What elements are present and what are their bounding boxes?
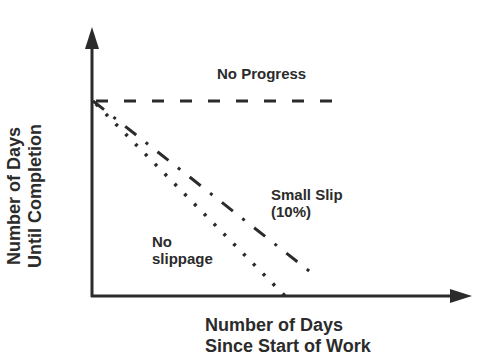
no-slippage-label-line2: slippage: [152, 250, 213, 267]
y-axis-label-line1: Number of Days: [4, 96, 25, 296]
no-progress-label: No Progress: [217, 65, 306, 82]
chart-canvas: [0, 0, 495, 360]
small-slip-label: Small Slip (10%): [271, 186, 343, 221]
x-axis-arrowhead-icon: [450, 289, 472, 303]
x-axis-label-line2: Since Start of Work: [205, 336, 371, 357]
y-axis-arrowhead-icon: [85, 27, 99, 49]
no-slippage-label: No slippage: [152, 233, 213, 268]
y-axis-label-line2: Until Completion: [25, 96, 46, 296]
small-slip-label-line2: (10%): [271, 203, 343, 220]
no-slippage-label-line1: No: [152, 233, 213, 250]
small-slip-label-line1: Small Slip: [271, 186, 343, 203]
x-axis-label: Number of Days Since Start of Work: [205, 315, 371, 356]
x-axis-label-line1: Number of Days: [205, 315, 371, 336]
